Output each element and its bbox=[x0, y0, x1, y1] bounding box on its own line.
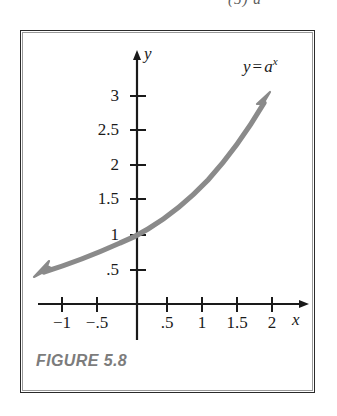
curve-equation-base: a bbox=[264, 57, 273, 76]
x-tick-label-0-5: .5 bbox=[147, 313, 187, 333]
x-tick-label-1: 1 bbox=[182, 313, 222, 333]
curve-equation-exponent: x bbox=[273, 55, 278, 67]
curve-arrowhead-left bbox=[34, 261, 51, 277]
y-tick-label-2-5: 2.5 bbox=[75, 120, 119, 140]
y-axis-label: y bbox=[144, 44, 152, 64]
curve-equation-label: y=ax bbox=[243, 55, 278, 77]
x-tick-label-2: 2 bbox=[252, 313, 292, 333]
curve-equation-equals: = bbox=[251, 57, 265, 76]
x-axis-label: x bbox=[292, 310, 300, 330]
figure-caption: FIGURE 5.8 bbox=[36, 352, 127, 370]
x-tick-label-1-5: 1.5 bbox=[217, 313, 257, 333]
y-tick-label-0-5: .5 bbox=[75, 260, 119, 280]
x-tick-label-neg-1: −1 bbox=[42, 313, 82, 333]
curve-equation-lhs: y bbox=[243, 57, 251, 76]
y-tick-label-1: 1 bbox=[75, 225, 119, 245]
x-tick-label-neg-0-5: −.5 bbox=[77, 313, 117, 333]
exponential-curve bbox=[34, 92, 270, 277]
y-tick-label-2: 2 bbox=[75, 155, 119, 175]
y-tick-label-1-5: 1.5 bbox=[75, 189, 119, 209]
y-tick-label-3: 3 bbox=[75, 86, 119, 106]
